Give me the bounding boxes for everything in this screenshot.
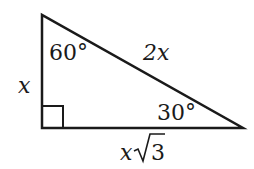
side-label-vertical: x bbox=[18, 73, 31, 98]
triangle-diagram: 60° 30° 2x x x 3 bbox=[0, 0, 254, 169]
side-label-horizontal-radicand: 3 bbox=[151, 140, 165, 165]
triangle bbox=[42, 15, 243, 128]
angle-label-right: 30° bbox=[157, 100, 196, 125]
angle-label-top: 60° bbox=[49, 40, 88, 65]
side-label-hypotenuse: 2x bbox=[142, 40, 170, 65]
right-angle-marker bbox=[42, 106, 63, 128]
side-label-horizontal-var: x bbox=[120, 140, 133, 165]
